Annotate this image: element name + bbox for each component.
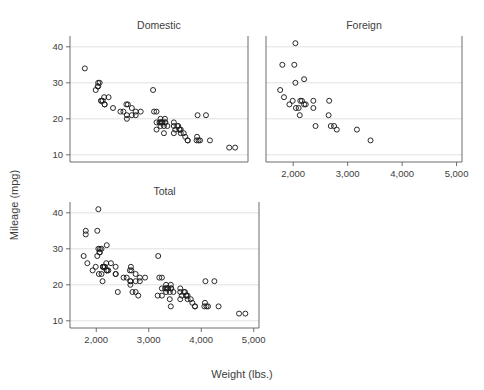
y-tick-label: 20 [52,113,63,124]
scatter-plot-matrix: 10203040Domestic 2,0003,0004,0005,000For… [0,0,484,390]
y-tick-label: 10 [52,149,63,160]
panel-title-total: Total [153,185,175,197]
x-tick-label: 2,000 [84,334,108,345]
plot-canvas: 10203040Domestic 2,0003,0004,0005,000For… [0,0,484,390]
x-tick-label: 5,000 [242,334,266,345]
y-tick-label: 20 [52,279,63,290]
x-axis-title: Weight (lbs.) [211,368,273,380]
y-tick-label: 30 [52,243,63,254]
y-axis-title: Mileage (mpg) [8,170,20,240]
y-tick-label: 30 [52,77,63,88]
x-tick-label: 2,000 [281,168,305,179]
plot-background [0,0,484,390]
panel-title-domestic: Domestic [137,19,181,31]
x-tick-label: 3,000 [137,334,161,345]
y-tick-label: 10 [52,315,63,326]
x-tick-label: 3,000 [336,168,360,179]
x-tick-label: 5,000 [445,168,469,179]
x-tick-label: 4,000 [189,334,213,345]
panel-title-foreign: Foreign [346,19,382,31]
y-tick-label: 40 [52,41,63,52]
y-tick-label: 40 [52,207,63,218]
x-tick-label: 4,000 [390,168,414,179]
